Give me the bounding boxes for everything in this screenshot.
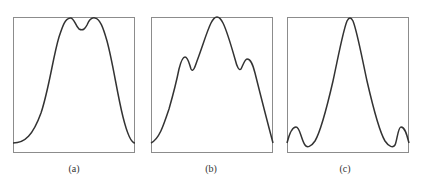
- panel-b: [151, 17, 273, 153]
- panel-a-label: (a): [54, 163, 94, 174]
- panel-b-label: (b): [191, 163, 231, 174]
- curve-c: [287, 17, 409, 153]
- panel-c-label: (c): [325, 163, 365, 174]
- curve-a: [13, 17, 135, 153]
- curve-b: [151, 17, 273, 153]
- panel-a: [13, 17, 135, 153]
- panel-c: [287, 17, 409, 153]
